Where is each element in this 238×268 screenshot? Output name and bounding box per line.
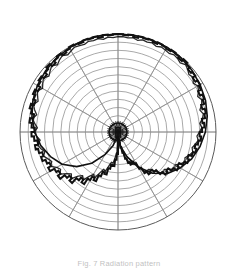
figure-caption: Fig. 7 Radiation pattern xyxy=(0,259,238,268)
